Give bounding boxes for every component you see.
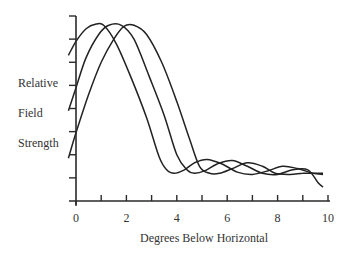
axes-group	[69, 16, 330, 205]
x-tick-label: 2	[123, 211, 129, 225]
x-tick-label: 6	[224, 211, 230, 225]
x-tick-labels-group: 0246810	[73, 211, 334, 225]
x-axis-label: Degrees Below Horizontal	[140, 231, 269, 245]
field-strength-chart: 0246810 Degrees Below Horizontal Relativ…	[0, 0, 354, 256]
series-group	[68, 23, 323, 187]
x-tick-label: 8	[275, 211, 281, 225]
x-tick-label: 4	[174, 211, 180, 225]
y-axis-label-line-2: Field	[18, 106, 43, 120]
x-tick-label: 0	[73, 211, 79, 225]
x-tick-label: 10	[322, 211, 334, 225]
series-line-curve-1	[68, 23, 323, 174]
series-line-curve-3	[68, 24, 323, 174]
y-axis-label-line-3: Strength	[18, 136, 59, 150]
y-axis-label-line-1: Relative	[18, 76, 58, 90]
